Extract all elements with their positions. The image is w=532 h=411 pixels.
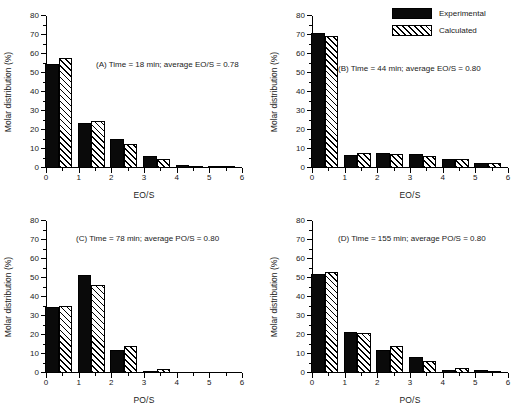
- legend-label-calculated: Calculated: [439, 26, 477, 35]
- x-axis-title-b: EO/S: [312, 190, 508, 200]
- y-tick-label: 10: [30, 145, 39, 153]
- x-tick-minor: [193, 373, 194, 376]
- bar-c-0-calculated: [59, 306, 73, 373]
- x-tick-minor: [226, 373, 227, 376]
- y-tick-label: 80: [296, 217, 305, 225]
- y-tick-label: 20: [30, 331, 39, 339]
- y-axis-title-a: Molar distribution (%): [2, 16, 14, 168]
- y-tick: [41, 53, 46, 54]
- bar-a-0-calculated: [59, 58, 73, 168]
- y-tick: [307, 315, 312, 316]
- y-tick: [307, 277, 312, 278]
- x-tick-label: 4: [174, 379, 178, 387]
- legend-item-calculated: Calculated: [392, 24, 486, 37]
- bar-b-1-calculated: [357, 153, 371, 168]
- y-tick-label: 20: [296, 126, 305, 134]
- y-tick: [307, 148, 312, 149]
- y-tick-label: 60: [296, 50, 305, 58]
- y-tick-label: 0: [301, 369, 305, 377]
- bar-d-0-experimental: [311, 274, 325, 373]
- y-tick: [41, 220, 46, 221]
- y-axis-title-b-text: Molar distribution (%): [269, 52, 279, 132]
- bar-c-3-calculated: [157, 369, 171, 373]
- x-tick-minor: [394, 168, 395, 171]
- y-axis-title-a-text: Molar distribution (%): [3, 52, 13, 132]
- y-tick-label: 50: [296, 69, 305, 77]
- bar-b-2-experimental: [376, 153, 390, 168]
- x-axis-title-a: EO/S: [46, 190, 242, 200]
- bar-b-3-calculated: [423, 156, 437, 168]
- x-axis-title-d: PO/S: [312, 395, 508, 405]
- bar-d-5-experimental: [474, 370, 488, 373]
- y-tick: [41, 110, 46, 111]
- y-tick: [307, 353, 312, 354]
- plot-area-a: 010203040506070800123456: [46, 16, 242, 168]
- x-tick-label: 5: [207, 379, 211, 387]
- y-tick: [41, 15, 46, 16]
- y-tick-label: 30: [30, 312, 39, 320]
- y-tick-label: 20: [296, 331, 305, 339]
- x-tick-minor: [193, 168, 194, 171]
- y-tick-minor: [309, 287, 312, 288]
- bar-c-3-experimental: [143, 371, 157, 373]
- y-tick: [307, 72, 312, 73]
- panel-caption-a: (A) Time = 18 min; average EO/S = 0.78: [96, 60, 239, 69]
- x-tick-label: 3: [408, 379, 412, 387]
- y-tick-label: 50: [30, 274, 39, 282]
- y-tick-minor: [43, 82, 46, 83]
- y-tick: [41, 129, 46, 130]
- y-tick: [41, 334, 46, 335]
- y-tick-minor: [309, 344, 312, 345]
- x-tick-minor: [95, 168, 96, 171]
- bar-b-4-experimental: [442, 159, 456, 168]
- x-tick-minor: [426, 373, 427, 376]
- y-tick-minor: [43, 344, 46, 345]
- x-tick-minor: [361, 168, 362, 171]
- bar-d-4-experimental: [442, 370, 456, 373]
- y-axis-title-c: Molar distribution (%): [2, 221, 14, 373]
- y-tick-label: 40: [30, 88, 39, 96]
- x-tick-minor: [328, 373, 329, 376]
- panel-a: Molar distribution (%) 01020304050607080…: [0, 0, 266, 206]
- y-tick-minor: [309, 101, 312, 102]
- y-tick: [41, 258, 46, 259]
- x-tick-label: 2: [109, 379, 113, 387]
- panel-caption-d: (D) Time = 155 min; average PO/S = 0.80: [338, 234, 486, 243]
- x-tick-minor: [426, 168, 427, 171]
- x-tick-minor: [328, 168, 329, 171]
- plot-area-c: 010203040506070800123456: [46, 221, 242, 373]
- y-tick-label: 30: [30, 107, 39, 115]
- bar-d-3-experimental: [409, 357, 423, 373]
- y-tick-label: 0: [35, 164, 39, 172]
- x-tick-label: 3: [142, 379, 146, 387]
- y-tick-minor: [309, 363, 312, 364]
- x-tick-label: 5: [473, 379, 477, 387]
- bar-a-5-experimental: [208, 166, 222, 168]
- x-tick-minor: [394, 373, 395, 376]
- bar-b-5-calculated: [488, 163, 502, 168]
- figure-four-panel-bar-charts: Molar distribution (%) 01020304050607080…: [0, 0, 532, 411]
- x-tick-label: 1: [76, 174, 80, 182]
- x-tick-label: 4: [174, 174, 178, 182]
- y-tick: [307, 239, 312, 240]
- x-tick-label: 0: [44, 379, 48, 387]
- y-tick-minor: [43, 363, 46, 364]
- y-tick-minor: [43, 101, 46, 102]
- x-tick-label: 2: [375, 379, 379, 387]
- bar-b-2-calculated: [390, 154, 404, 168]
- plot-area-d: 010203040506070800123456: [312, 221, 508, 373]
- y-tick-label: 0: [301, 164, 305, 172]
- y-tick-minor: [43, 230, 46, 231]
- y-tick-label: 10: [296, 145, 305, 153]
- x-tick-minor: [128, 168, 129, 171]
- bar-a-4-calculated: [189, 166, 203, 168]
- bar-a-1-experimental: [78, 123, 92, 168]
- x-tick-minor: [62, 373, 63, 376]
- y-axis-title-c-text: Molar distribution (%): [3, 257, 13, 337]
- x-tick-label: 4: [440, 379, 444, 387]
- y-tick-minor: [309, 25, 312, 26]
- y-tick: [307, 296, 312, 297]
- bars-a: [46, 16, 242, 168]
- x-tick-minor: [459, 168, 460, 171]
- y-tick-minor: [43, 120, 46, 121]
